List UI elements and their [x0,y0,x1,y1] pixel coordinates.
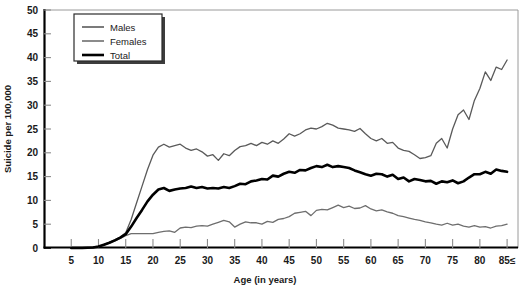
x-tick-label: 15 [120,255,132,266]
y-tick-label: 45 [27,28,39,39]
x-tick-label: 50 [311,255,323,266]
x-tick-label: 55 [338,255,350,266]
x-tick-label: 25 [175,255,187,266]
x-tick-label: 70 [420,255,432,266]
x-tick-label: 5 [68,255,74,266]
x-tick-label: 35 [229,255,241,266]
x-tick-label: 40 [256,255,268,266]
x-tick-label: 10 [93,255,105,266]
x-axis-title: Age (in years) [234,274,297,285]
suicide-rate-by-age-chart: 05101520253035404550 5101520253035404550… [0,0,529,291]
y-tick-label: 20 [27,147,39,158]
chart-legend: MalesFemalesTotal [74,14,165,64]
x-tick-label: 45 [284,255,296,266]
y-tick-label: 0 [32,243,38,254]
y-tick-label: 30 [27,100,39,111]
y-tick-label: 50 [27,5,39,16]
y-tick-label: 5 [32,219,38,230]
x-tick-label: 80 [474,255,486,266]
y-tick-label: 35 [27,76,39,87]
legend-label-total: Total [110,50,130,61]
x-tick-label: 85≤ [499,255,516,266]
y-tick-label: 40 [27,52,39,63]
legend-label-males: Males [110,22,136,33]
y-tick-label: 25 [27,124,39,135]
y-tick-label: 10 [27,195,39,206]
y-axis-title: Suicide per 100,000 [2,85,13,173]
legend-label-females: Females [110,36,147,47]
x-tick-label: 60 [365,255,377,266]
x-tick-label: 30 [202,255,214,266]
x-tick-label: 20 [147,255,159,266]
chart-canvas: 05101520253035404550 5101520253035404550… [0,0,529,291]
y-tick-label: 15 [27,171,39,182]
x-tick-label: 75 [447,255,459,266]
x-tick-label: 65 [393,255,405,266]
